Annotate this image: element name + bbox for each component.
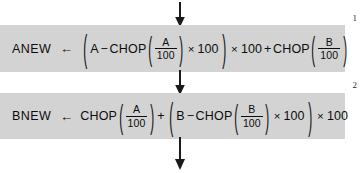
close-paren-chop-1a: ) <box>179 29 183 68</box>
statement-band-1: ANEW ← ( A − CHOP ( A 100 ) × 100 ) × 10… <box>0 25 345 72</box>
assign-target-bnew: BNEW <box>12 109 51 123</box>
fraction-a-over-100-1: A 100 <box>155 37 177 61</box>
times-operator-2b: × <box>317 110 324 122</box>
flow-arrow-bottom-icon <box>172 137 188 170</box>
assign-target-anew: ANEW <box>12 42 51 56</box>
fraction-b-over-100-2: B 100 <box>241 104 263 128</box>
operand-a-1: A <box>90 42 98 56</box>
flowchart-diagram: 1 ANEW ← ( A − CHOP ( A 100 ) × 100 ) × … <box>0 0 360 173</box>
fraction-denominator: 100 <box>126 117 148 129</box>
open-paren-chop-2a: ( <box>119 97 123 136</box>
fraction-a-over-100-2: A 100 <box>126 104 148 128</box>
constant-100-1a: 100 <box>197 42 218 56</box>
chop-function-2b: CHOP <box>196 109 233 123</box>
chop-function-2a: CHOP <box>80 109 117 123</box>
open-paren-chop-2b: ( <box>234 97 238 136</box>
minus-operator-2: − <box>187 109 194 123</box>
step-number-1: 1 <box>353 14 358 23</box>
close-paren-outer-2: ) <box>308 95 312 138</box>
fraction-denominator: 100 <box>155 49 177 61</box>
formula-anew: ANEW ← ( A − CHOP ( A 100 ) × 100 ) × 10… <box>12 37 349 61</box>
times-operator-1a: × <box>188 43 195 55</box>
open-paren-chop-1b: ( <box>312 29 316 68</box>
minus-operator-1: − <box>101 42 108 56</box>
close-paren-chop-2b: ) <box>265 97 269 136</box>
statement-band-2: BNEW ← CHOP ( A 100 ) + ( B − CHOP ( B 1… <box>0 93 345 139</box>
open-paren-chop-1a: ( <box>148 29 152 68</box>
open-paren-outer-2: ( <box>169 95 173 138</box>
fraction-denominator: 100 <box>241 117 263 129</box>
flow-arrow-top-icon <box>172 2 188 27</box>
operand-b-2: B <box>176 109 184 123</box>
constant-100-2b: 100 <box>327 109 348 123</box>
plus-operator-1: + <box>264 42 271 56</box>
formula-bnew: BNEW ← CHOP ( A 100 ) + ( B − CHOP ( B 1… <box>12 104 349 128</box>
assignment-arrow-1: ← <box>60 42 73 55</box>
step-number-2: 2 <box>353 81 358 90</box>
fraction-numerator: A <box>160 37 171 49</box>
fraction-numerator: B <box>324 37 335 49</box>
times-operator-1b: × <box>231 43 238 55</box>
chop-function-1b: CHOP <box>273 42 310 56</box>
constant-100-1b: 100 <box>241 42 262 56</box>
constant-100-2a: 100 <box>283 109 304 123</box>
close-paren-chop-1b: ) <box>343 29 347 68</box>
chop-function-1a: CHOP <box>110 42 147 56</box>
open-paren-outer-1: ( <box>83 27 87 70</box>
fraction-b-over-100-1: B 100 <box>318 37 340 61</box>
fraction-numerator: A <box>131 104 142 116</box>
plus-operator-2: + <box>157 109 164 123</box>
flow-arrow-middle-icon <box>172 70 188 95</box>
times-operator-2a: × <box>274 110 281 122</box>
assignment-arrow-2: ← <box>60 110 73 123</box>
close-paren-outer-1: ) <box>222 27 226 70</box>
close-paren-chop-2a: ) <box>150 97 154 136</box>
fraction-denominator: 100 <box>318 49 340 61</box>
fraction-numerator: B <box>246 104 257 116</box>
